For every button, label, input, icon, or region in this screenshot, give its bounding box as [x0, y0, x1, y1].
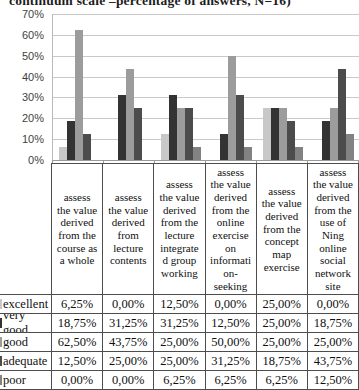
y-axis-tick-label: 20% [0, 111, 44, 125]
table-value-cell: 43,75% [103, 333, 154, 352]
bar-good [330, 108, 338, 160]
table-value-cell: 12,50% [206, 314, 257, 333]
table-column-header: assess the value derived from the online… [206, 163, 257, 295]
table-value-cell: 0,00% [308, 295, 359, 314]
table-value-cell: 31,25% [206, 352, 257, 371]
legend-key-swatch [0, 337, 2, 347]
table-row-label: adequate [0, 352, 52, 371]
legend-key-swatch [0, 299, 2, 309]
bar-excellent [161, 134, 169, 160]
table-column-header: assess the value derived from lecture co… [103, 163, 154, 295]
y-axis-tick-label: 50% [0, 49, 44, 63]
table-column-header: assess the value derived from the course… [52, 163, 103, 295]
bar-very-good [118, 95, 126, 160]
y-axis-tick-label: 60% [0, 28, 44, 42]
table-value-cell: 25,00% [257, 314, 308, 333]
table-value-cell: 6,25% [154, 371, 205, 390]
table-column-header: assess the value derived from the use of… [308, 163, 359, 295]
bar-poor [295, 147, 303, 160]
y-axis-tick-label: 40% [0, 70, 44, 84]
table-value-cell: 25,00% [103, 352, 154, 371]
bar-good [177, 108, 185, 160]
y-axis-tick-label: 70% [0, 7, 44, 21]
table-row-label: poor [0, 371, 52, 390]
row-label-text: adequate [3, 354, 47, 369]
legend-key-swatch [0, 356, 2, 366]
bar-adequate [287, 121, 295, 160]
legend-key-swatch [0, 375, 2, 385]
table-row-label: excellent [0, 295, 52, 314]
bar-adequate [185, 108, 193, 160]
legend-key-swatch [0, 318, 2, 328]
bar-excellent [263, 108, 271, 160]
bar-adequate [236, 95, 244, 160]
bar-adequate [134, 108, 142, 160]
bar-group [257, 14, 308, 160]
y-axis-tick-label: 10% [0, 132, 44, 146]
table-column-header: assess the value derived from the lectur… [154, 163, 205, 295]
bar-very-good [271, 108, 279, 160]
table-value-cell: 25,00% [257, 333, 308, 352]
table-value-cell: 62,50% [52, 333, 103, 352]
table-value-cell: 0,00% [103, 295, 154, 314]
table-value-cell: 25,00% [154, 352, 205, 371]
chart-title: continuum scale –percentage of answers, … [9, 0, 291, 9]
bar-group [104, 14, 155, 160]
table-value-cell: 6,25% [52, 295, 103, 314]
table-value-cell: 0,00% [52, 371, 103, 390]
table-value-cell: 31,25% [103, 314, 154, 333]
chart-with-data-table: continuum scale –percentage of answers, … [0, 0, 359, 390]
bar-poor [244, 147, 252, 160]
table-value-cell: 43,75% [308, 352, 359, 371]
bar-group [308, 14, 359, 160]
table-corner-cell [0, 163, 52, 295]
bar-very-good [169, 95, 177, 160]
row-label-text: poor [3, 373, 26, 388]
row-label-text: excellent [3, 297, 48, 312]
table-value-cell: 31,25% [154, 314, 205, 333]
table-value-cell: 6,25% [257, 371, 308, 390]
plot-area [52, 14, 359, 160]
table-row-label: very good [0, 314, 52, 333]
table-value-cell: 18,75% [257, 352, 308, 371]
row-label-text: very good [3, 314, 51, 333]
bar-group [206, 14, 257, 160]
table-value-cell: 25,00% [257, 295, 308, 314]
bar-poor [193, 147, 201, 160]
bar-group [155, 14, 206, 160]
bar-good [228, 56, 236, 160]
table-value-cell: 0,00% [206, 295, 257, 314]
chart-data-table: assess the value derived from the course… [0, 163, 359, 390]
bar-good [126, 69, 134, 160]
bar-poor [346, 134, 354, 160]
table-value-cell: 12,50% [154, 295, 205, 314]
table-column-header: assess the value derived from the concep… [257, 163, 308, 295]
table-value-cell: 18,75% [52, 314, 103, 333]
bar-group [53, 14, 104, 160]
bar-very-good [220, 134, 228, 160]
bar-adequate [83, 134, 91, 160]
row-label-text: good [3, 335, 28, 350]
table-value-cell: 12,50% [308, 371, 359, 390]
table-value-cell: 25,00% [308, 333, 359, 352]
table-value-cell: 12,50% [52, 352, 103, 371]
table-value-cell: 18,75% [308, 314, 359, 333]
table-value-cell: 0,00% [103, 371, 154, 390]
table-row-label: good [0, 333, 52, 352]
table-value-cell: 6,25% [206, 371, 257, 390]
bar-very-good [67, 121, 75, 160]
bar-good [279, 108, 287, 160]
table-value-cell: 50,00% [206, 333, 257, 352]
bar-very-good [322, 121, 330, 160]
bar-good [75, 30, 83, 160]
bar-excellent [59, 147, 67, 160]
y-axis-tick-label: 30% [0, 90, 44, 104]
bar-adequate [338, 69, 346, 160]
table-value-cell: 25,00% [154, 333, 205, 352]
